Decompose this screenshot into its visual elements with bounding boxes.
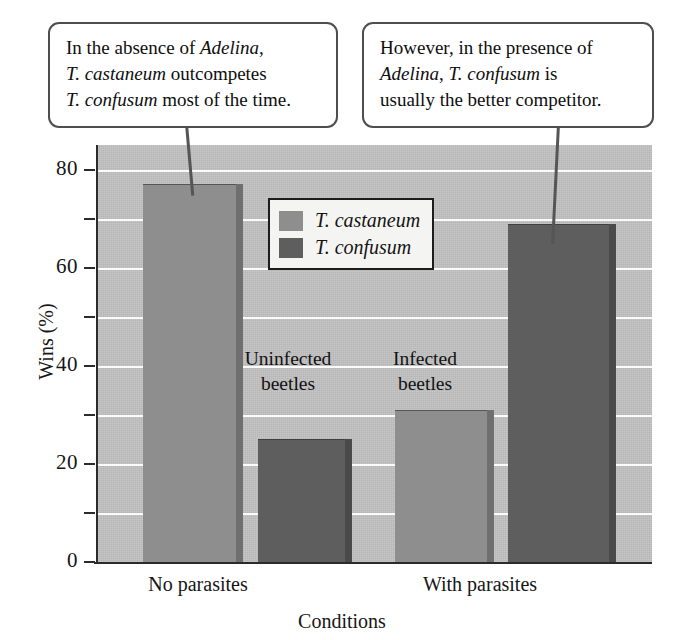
y-tick-major-0 bbox=[84, 561, 95, 563]
y-tick-major-20 bbox=[84, 463, 95, 465]
legend-item-castaneum: T. castaneum bbox=[279, 207, 420, 234]
y-tick-major-80 bbox=[84, 169, 95, 171]
bar-no-parasites-t-confusum bbox=[258, 439, 352, 562]
bar-face bbox=[395, 410, 494, 562]
y-tick-major-60 bbox=[84, 267, 95, 269]
y-tick-label-0: 0 bbox=[34, 548, 78, 573]
gridline-80 bbox=[98, 170, 652, 172]
callout-right-line3: usually the better competitor. bbox=[380, 87, 638, 113]
legend-swatch-castaneum bbox=[279, 211, 303, 231]
x-axis-line bbox=[94, 562, 652, 564]
callout-left-line2: T. castaneum outcompetes bbox=[66, 61, 322, 87]
bar-side-shadow bbox=[487, 410, 494, 562]
callout-right-line2: Adelina, T. confusum is bbox=[380, 61, 638, 87]
annotation-infected-beetles: Infected beetles bbox=[365, 347, 485, 397]
legend-label-castaneum: T. castaneum bbox=[315, 209, 420, 232]
x-axis-title: Conditions bbox=[0, 610, 684, 633]
bar-with-parasites-t-confusum bbox=[508, 224, 616, 563]
bar-side-shadow bbox=[345, 439, 352, 562]
legend-label-confusum: T. confusum bbox=[315, 236, 411, 259]
y-tick-major-40 bbox=[84, 365, 95, 367]
y-tick-label-20: 20 bbox=[34, 450, 78, 475]
annotation-uninfected-line1: Uninfected bbox=[222, 347, 354, 372]
x-axis-label-with-parasites: With parasites bbox=[380, 573, 580, 596]
annotation-uninfected-line2: beetles bbox=[222, 372, 354, 397]
y-axis-title: Wins (%) bbox=[35, 272, 58, 412]
y-tick-minor-70 bbox=[84, 218, 95, 220]
y-tick-minor-50 bbox=[84, 316, 95, 318]
y-tick-label-80: 80 bbox=[34, 156, 78, 181]
callout-left: In the absence of Adelina, T. castaneum … bbox=[48, 22, 338, 128]
callout-right-line1: However, in the presence of bbox=[380, 35, 638, 61]
legend-swatch-confusum bbox=[279, 238, 303, 258]
bar-with-parasites-t-castaneum bbox=[395, 410, 494, 562]
bar-chart-figure: 020406080 Wins (%) No parasites With par… bbox=[0, 0, 684, 640]
x-axis-label-no-parasites: No parasites bbox=[108, 573, 288, 596]
y-tick-minor-30 bbox=[84, 414, 95, 416]
y-tick-minor-10 bbox=[84, 512, 95, 514]
bar-face bbox=[258, 439, 352, 562]
annotation-infected-line1: Infected bbox=[365, 347, 485, 372]
callout-left-line1: In the absence of Adelina, bbox=[66, 35, 322, 61]
annotation-uninfected-beetles: Uninfected beetles bbox=[222, 347, 354, 397]
legend: T. castaneum T. confusum bbox=[268, 198, 434, 270]
callout-right: However, in the presence of Adelina, T. … bbox=[362, 22, 654, 128]
legend-item-confusum: T. confusum bbox=[279, 234, 420, 261]
annotation-infected-line2: beetles bbox=[365, 372, 485, 397]
bar-face bbox=[508, 224, 616, 563]
bar-side-shadow bbox=[609, 224, 616, 563]
callout-left-line3: T. confusum most of the time. bbox=[66, 87, 322, 113]
